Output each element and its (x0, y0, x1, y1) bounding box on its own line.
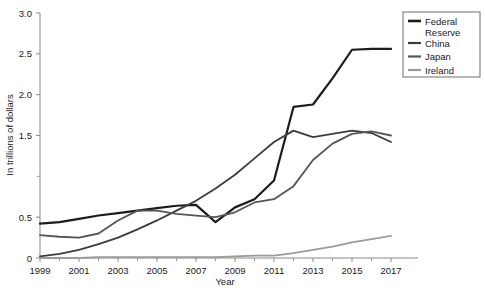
x-tick-label: 2005 (146, 265, 167, 276)
x-tick-label: 2013 (302, 265, 323, 276)
y-tick-label: 1.5 (19, 130, 32, 141)
x-tick-label: 2007 (185, 265, 206, 276)
legend-label: Reserve (425, 27, 460, 38)
x-tick-label: 2009 (224, 265, 245, 276)
x-axis-title: Year (215, 276, 234, 287)
chart-container: 00.51.52.02.53.0 19992001200320052007200… (0, 0, 485, 291)
y-tick-label: 3.0 (19, 8, 32, 19)
legend-label: Japan (425, 51, 451, 62)
y-axis-title: In trillions of dollars (4, 94, 15, 176)
x-tick-label: 2015 (341, 265, 362, 276)
y-tick-label: 0 (27, 253, 32, 264)
x-tick-label: 2003 (107, 265, 128, 276)
legend-label: China (425, 38, 451, 49)
legend-label: Federal (425, 16, 457, 27)
x-tick-label: 2017 (380, 265, 401, 276)
x-tick-label: 1999 (29, 265, 50, 276)
y-tick-label: 2.5 (19, 48, 32, 59)
x-tick-label: 2001 (68, 265, 89, 276)
y-tick-label: 2.0 (19, 89, 32, 100)
line-chart: 00.51.52.02.53.0 19992001200320052007200… (0, 0, 485, 291)
legend-label: Ireland (425, 65, 454, 76)
y-tick-label: 0.5 (19, 212, 32, 223)
x-tick-label: 2011 (264, 265, 284, 276)
